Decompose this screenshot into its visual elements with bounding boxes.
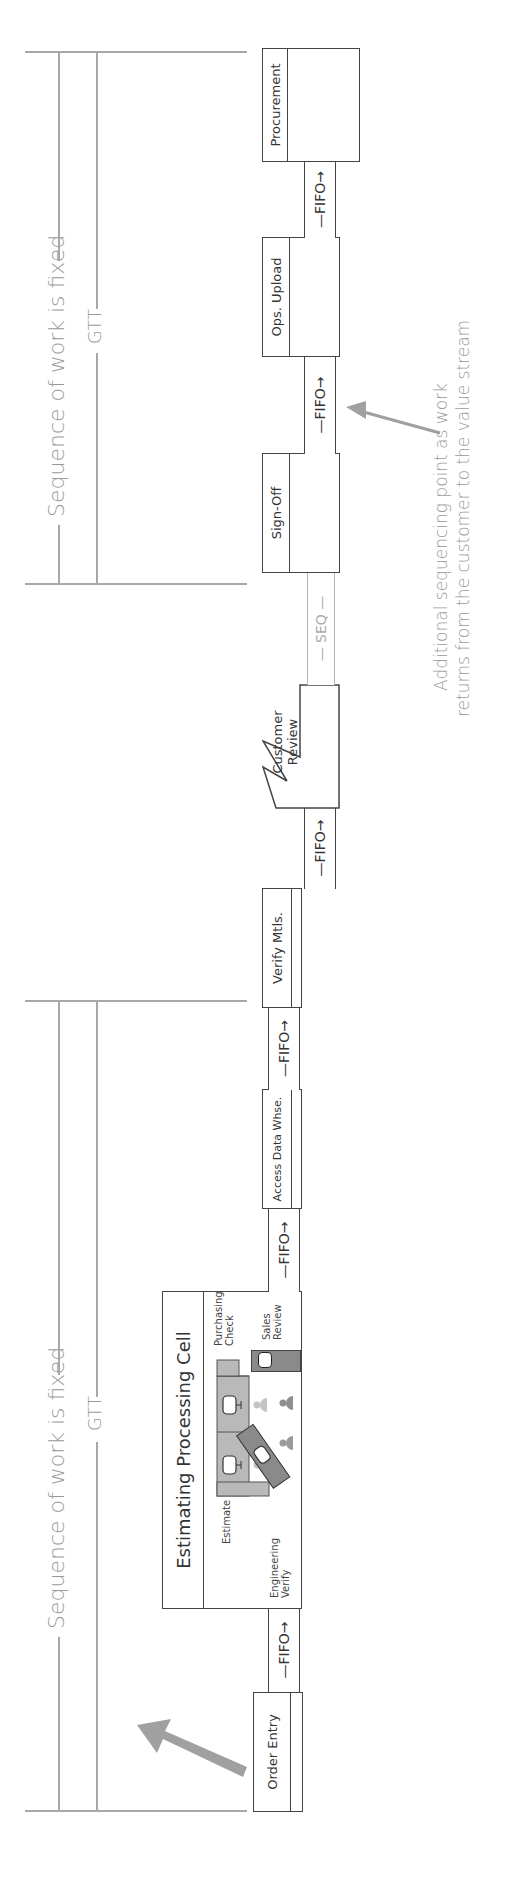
sales-desk [251, 1350, 301, 1372]
fifo-label-6: —FIFO→ [312, 171, 328, 228]
fifo-lane-1: —FIFO→ [268, 1608, 300, 1692]
bracket-left-sequence-label: Sequence of work is fixed [44, 1347, 69, 1629]
fifo-label-4: —FIFO→ [312, 820, 328, 877]
process-box-ops-upload: Ops. Upload [262, 237, 340, 357]
process-box-verify-mtls: Verify Mtls. [262, 888, 302, 1008]
process-title-verify-mtls: Verify Mtls. [263, 889, 292, 1007]
bracket-left-gtt-line-b [96, 1002, 98, 1397]
station-label-purchasing: Purchasing Check [213, 1291, 235, 1346]
fifo-label-5: —FIFO→ [312, 377, 328, 434]
process-box-access-data-whse: Access Data Whse. [262, 1089, 302, 1209]
station-label-engineering: Engineering Verify [269, 1538, 291, 1598]
process-title-estimating-cell: Estimating Processing Cell [163, 1292, 204, 1608]
bracket-left-top-line-a [58, 1637, 60, 1812]
bracket-right-gtt-line-b [96, 53, 98, 309]
bracket-right-sequence-label: Sequence of work is fixed [44, 235, 69, 517]
bracket-left-top-line-b [58, 1002, 60, 1375]
fifo-label-2: —FIFO→ [276, 1222, 292, 1279]
bracket-right-top-line-a [58, 525, 60, 585]
bracket-right-gtt-label: GTT [84, 309, 105, 344]
process-title-ops-upload: Ops. Upload [263, 238, 290, 356]
seq-lane: — SEQ — [307, 572, 335, 685]
annotation-line-2: returns from the customer to the value s… [452, 357, 474, 717]
fifo-lane-4: —FIFO→ [304, 807, 336, 889]
process-box-estimating-cell: Estimating Processing Cell Estimate Engi… [162, 1291, 302, 1609]
fifo-label-1: —FIFO→ [276, 1622, 292, 1679]
station-label-sales: Sales Review [261, 1304, 283, 1340]
process-title-procurement: Procurement [263, 49, 288, 161]
process-box-order-entry: Order Entry [253, 1692, 303, 1812]
process-title-sign-off: Sign-Off [263, 454, 290, 572]
fifo-lane-6: —FIFO→ [304, 161, 336, 238]
bracket-left-gtt-label: GTT [84, 1396, 105, 1431]
fifo-lane-3: —FIFO→ [268, 1007, 300, 1090]
value-stream-diagram: Sequence of work is fixed GTT Sequence o… [0, 0, 520, 1897]
fifo-lane-5: —FIFO→ [304, 356, 336, 454]
bracket-left-gtt-line-a [96, 1442, 98, 1812]
process-box-procurement: Procurement [262, 48, 360, 162]
bracket-right-top-line-b [58, 53, 60, 261]
customer-review-label: Customer Review [270, 707, 300, 777]
bracket-right-gtt-line-a [96, 353, 98, 585]
process-box-sign-off: Sign-Off [262, 453, 340, 573]
annotation-line-1: Additional sequencing point as work [430, 357, 452, 717]
fifo-label-3: —FIFO→ [276, 1020, 292, 1077]
incoming-arrow-icon [135, 1707, 255, 1797]
process-title-order-entry: Order Entry [254, 1693, 291, 1811]
process-title-access-data-whse: Access Data Whse. [263, 1090, 292, 1208]
fifo-lane-2: —FIFO→ [268, 1208, 300, 1292]
station-label-estimate: Estimate [221, 1500, 232, 1544]
seq-label: — SEQ — [313, 596, 329, 662]
annotation-text: Additional sequencing point as work retu… [430, 357, 474, 717]
